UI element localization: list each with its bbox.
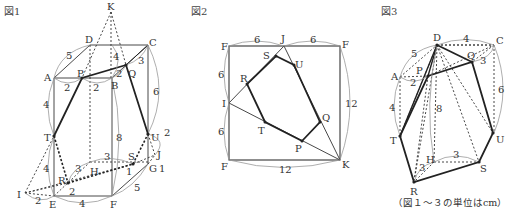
length-AT: 4 [43,99,49,110]
length-PB: 2 [93,82,99,93]
label-G: G [149,163,157,174]
length-RH: 3 [419,162,425,173]
length-HS: 3 [104,151,110,162]
length-FK-bottom: 12 [279,164,292,175]
length-TE: 4 [43,163,49,174]
length-IF: 6 [218,126,224,137]
length-JF: 6 [310,34,316,45]
label-J: J [156,149,161,160]
figure-3: 図3 [381,6,507,208]
label-A: A [43,72,52,83]
length-CG: 6 [153,86,159,97]
length-SG: 1 [126,166,132,177]
length-QB: 2 [116,68,122,79]
length-EF: 4 [79,198,85,209]
length-BF: 8 [116,132,122,143]
figure-3-title: 図3 [381,6,397,17]
label-A: A [390,71,399,82]
length-IE: 2 [35,195,41,206]
length-GJ: 1 [159,163,165,174]
label-F-top-left: F [221,41,228,52]
length-RE: 2 [69,186,75,197]
figure-1: 図1 [4,1,170,210]
label-E: E [49,199,56,210]
figure-2-title: 図2 [191,6,207,17]
length-AP: 2 [64,82,70,93]
label-S: S [263,50,270,61]
label-K: K [107,1,115,12]
length-FG: 5 [134,182,140,193]
length-FK-right: 12 [345,98,358,109]
length-K-seg: 4 [113,51,119,62]
label-R: R [240,73,248,84]
length-FJ: 6 [254,34,260,45]
label-B: B [111,80,118,91]
label-I: I [222,98,226,109]
figures-canvas: 図1 [0,0,508,211]
label-T: T [258,125,265,136]
length-HS: 3 [453,149,459,160]
length-CQ: 3 [480,55,486,66]
label-H: H [426,154,435,165]
label-P: P [416,65,423,76]
length-CQ: 3 [138,55,144,66]
label-F-top-right: F [342,39,349,50]
length-AD: 5 [411,48,417,59]
label-T: T [390,135,397,146]
label-Q: Q [128,68,136,79]
label-K: K [342,159,350,170]
label-F-bottom-left: F [221,161,228,172]
label-R: R [58,175,66,186]
length-AP: 2 [410,77,416,88]
label-I: I [17,189,21,200]
length-FI: 6 [218,69,224,80]
label-S: S [480,163,487,174]
length-UJ: 2 [164,127,170,138]
label-D: D [85,34,93,45]
label-C: C [496,35,504,46]
label-P: P [295,143,302,154]
units-footnote: （図１～３の単位はcm） [393,197,507,208]
label-D: D [433,32,441,43]
label-T: T [44,132,51,143]
length-DC: 4 [463,33,469,44]
figure-1-title: 図1 [4,6,20,17]
label-F: F [110,199,117,210]
length-RH: 3 [75,163,81,174]
label-R: R [410,186,418,197]
label-Q: Q [467,50,475,61]
label-P: P [77,68,84,79]
label-Q: Q [322,112,330,123]
label-U: U [151,132,159,143]
label-J: J [280,33,285,44]
label-C: C [149,37,157,48]
label-H: H [90,166,99,177]
length-AT: 4 [389,102,395,113]
length-CU: 6 [498,84,504,95]
length-AD: 5 [66,50,72,61]
label-U: U [295,59,303,70]
label-S: S [128,151,135,162]
label-U: U [496,134,504,145]
figure-2: 図2 F J F I F K S U R T P Q 6 6 6 [191,6,358,175]
length-DH: 8 [436,103,442,114]
